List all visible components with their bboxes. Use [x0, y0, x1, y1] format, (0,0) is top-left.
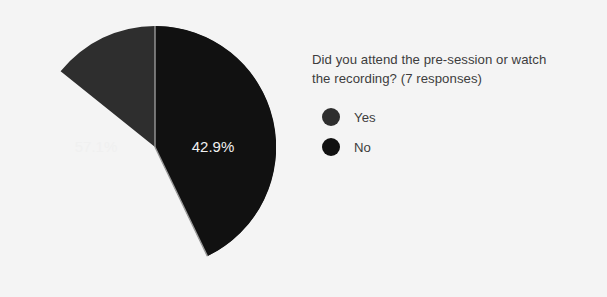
- legend-label-no: No: [354, 140, 371, 155]
- slice-label-yes: 57.1%: [75, 138, 118, 155]
- pie-chart-graphic: 57.1% 42.9%: [34, 26, 276, 268]
- chart-title-line2: the recording? (7 responses): [312, 69, 564, 88]
- pie-chart-card: 57.1% 42.9% Did you attend the pre-sessi…: [0, 0, 607, 297]
- chart-title-line1: Did you attend the pre-session or watch: [312, 50, 564, 69]
- chart-legend-block: Did you attend the pre-session or watch …: [312, 50, 580, 162]
- pie-svg: 57.1% 42.9%: [34, 26, 276, 268]
- legend-item-yes[interactable]: Yes: [312, 102, 580, 132]
- slice-label-no: 42.9%: [192, 138, 235, 155]
- legend-swatch-no-icon: [322, 138, 340, 156]
- legend-label-yes: Yes: [354, 110, 376, 125]
- legend-item-no[interactable]: No: [312, 132, 580, 162]
- chart-title: Did you attend the pre-session or watch …: [312, 50, 564, 88]
- legend-swatch-yes-icon: [322, 108, 340, 126]
